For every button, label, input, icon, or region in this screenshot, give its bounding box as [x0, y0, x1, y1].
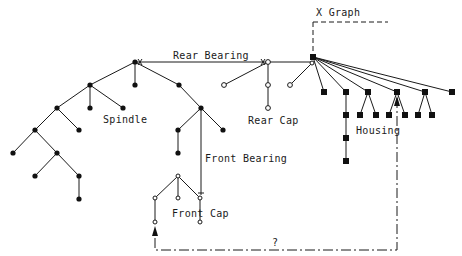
x-graph-bracket [313, 22, 388, 56]
spindle-tree-edges [13, 62, 223, 199]
front-bearing-label: Front Bearing [205, 153, 287, 164]
spindle-tree-nodes [10, 59, 225, 201]
front-cap-label: Front Cap [172, 208, 229, 219]
front-bearing-link [198, 110, 204, 195]
housing-tree-nodes [310, 54, 455, 164]
x-graph-label: X Graph [316, 7, 360, 18]
unknown-link-label: ? [272, 237, 278, 248]
rear-cap-label: Rear Cap [248, 115, 299, 126]
housing-tree-edges [313, 57, 452, 161]
rear-bearing-label: Rear Bearing [173, 50, 249, 61]
arrow-up-icon [152, 226, 158, 236]
assembly-graph-diagram: X Graph Rear Bearing [0, 0, 462, 256]
housing-label: Housing [356, 125, 400, 136]
spindle-label: Spindle [103, 114, 147, 125]
